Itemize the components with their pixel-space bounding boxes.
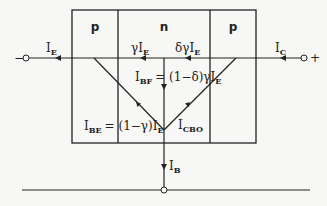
region-emitter-label: p (91, 20, 100, 34)
transistor-current-diagram: p n p − + IE γIE δγIE IC IBF= (1−δ)γIE I… (0, 0, 327, 206)
region-collector-label: p (229, 20, 238, 34)
positive-sign: + (310, 51, 320, 65)
gamma-ie-label: γIE (131, 41, 149, 57)
ie-label: IE (46, 41, 57, 57)
negative-sign: − (14, 51, 24, 65)
region-base-label: n (160, 20, 169, 34)
collector-terminal (301, 55, 307, 61)
base-terminal (161, 187, 167, 193)
arrow-ib-icon (161, 164, 167, 170)
arrow-ibf-icon (161, 84, 167, 90)
ibe-label: IBE= (1−γ)IE (84, 119, 164, 135)
arrow-delta-gamma-ie-icon (185, 55, 191, 61)
ib-label: IB (169, 159, 181, 175)
icbo-label: ICBO (178, 118, 203, 134)
ic-label: IC (275, 41, 286, 57)
delta-gamma-ie-label: δγIE (175, 41, 200, 57)
icbo-path (164, 58, 236, 130)
ibf-label: IBF= (1−δ)γIE (135, 70, 221, 86)
